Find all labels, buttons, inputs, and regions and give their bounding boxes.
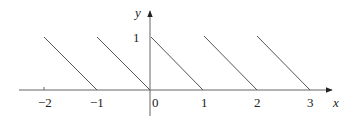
x-tick-label: 1 [201, 95, 208, 110]
x-tick-label: 3 [307, 95, 314, 110]
segment [44, 37, 97, 90]
x-tick-label: 0 [152, 95, 159, 110]
segment [204, 36, 257, 90]
segment [97, 37, 150, 90]
sawtooth-series [44, 36, 310, 90]
y-tick-label-1: 1 [133, 30, 140, 45]
x-axis-label: x [332, 95, 339, 110]
x-tick-label: 2 [254, 95, 261, 110]
sawtooth-chart: y 1 −2 −1 0 1 2 3 x [0, 0, 358, 122]
y-axis-label: y [133, 5, 141, 20]
x-tick-label: −1 [90, 95, 104, 110]
segment [151, 37, 203, 90]
segment [257, 36, 310, 90]
x-tick-label: −2 [38, 95, 52, 110]
